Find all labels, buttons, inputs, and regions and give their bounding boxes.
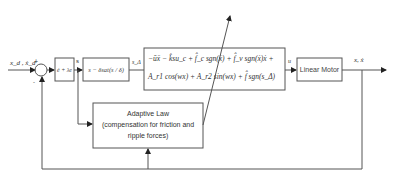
input-label: x_d , ẋ_d bbox=[10, 60, 35, 67]
plus-sign: + bbox=[34, 58, 38, 65]
controller-line1: −ūẍ − k̂su_c + f̂_c sgn(ẋ) + f̂_v sgn(ẋ)… bbox=[148, 55, 273, 63]
controller-line2: A_r1 cos(wx) + A_r2 sin(wx) + f̂ sgn(s_Δ… bbox=[148, 73, 275, 81]
linear-motor-label: Linear Motor bbox=[297, 58, 342, 81]
minus-sign: - bbox=[33, 79, 35, 85]
error-filter-label: ė + λe bbox=[55, 58, 74, 81]
saturation-label: s − δsat(s / δ) bbox=[83, 58, 129, 81]
signal-u-label: u bbox=[288, 58, 291, 64]
adaptive-law-title: Adaptive Law bbox=[93, 110, 203, 117]
adaptive-law-line3: ripple forces) bbox=[93, 132, 203, 139]
output-label: x, ẋ bbox=[354, 57, 364, 64]
adaptive-law-line2: (compensation for friction and bbox=[93, 121, 203, 128]
signal-s-label: s bbox=[76, 58, 79, 64]
signal-s-delta-label: s_Δ bbox=[132, 59, 141, 65]
summing-junction bbox=[35, 64, 47, 76]
adaptation-arrow bbox=[203, 16, 230, 125]
diagram-canvas bbox=[0, 0, 393, 182]
